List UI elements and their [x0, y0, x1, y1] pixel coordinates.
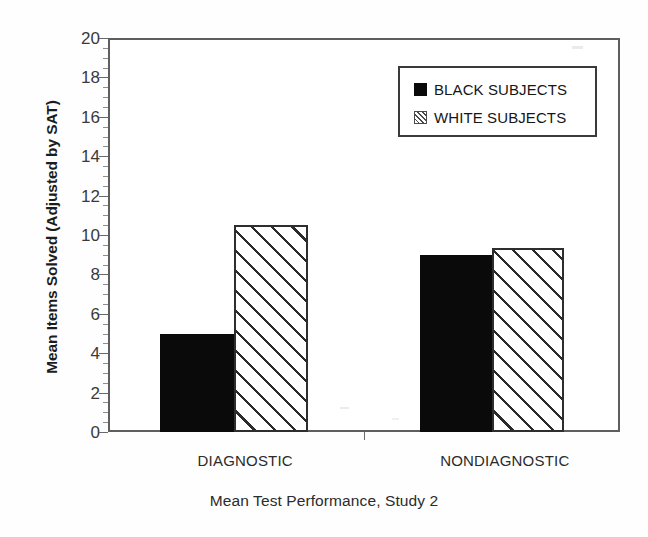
x-axis-label-diagnostic: DIAGNOSTIC [198, 452, 293, 469]
y-major-tick [99, 393, 108, 394]
y-tick-label: 6 [60, 305, 100, 322]
y-tick-label: 4 [60, 345, 100, 362]
y-major-tick [99, 117, 108, 118]
chart-legend: BLACK SUBJECTS WHITE SUBJECTS [398, 66, 597, 137]
y-major-tick [99, 77, 108, 78]
x-major-tick [364, 432, 365, 440]
bar-nondiagnostic-black-subjects [420, 255, 492, 432]
scan-speckle [392, 418, 399, 420]
y-tick-label: 20 [60, 30, 100, 47]
y-tick-label: 10 [60, 227, 100, 244]
y-major-tick [99, 314, 108, 315]
figure-caption: Mean Test Performance, Study 2 [0, 492, 648, 510]
y-major-tick [99, 38, 108, 39]
x-axis-ticks [108, 432, 620, 442]
legend-item-white-subjects: WHITE SUBJECTS [414, 103, 595, 131]
hatched-square-swatch-icon [414, 111, 427, 124]
scan-speckle [572, 46, 583, 49]
x-axis-label-nondiagnostic: NONDIAGNOSTIC [440, 452, 569, 469]
y-tick-label: 16 [60, 108, 100, 125]
chart-figure: Mean Items Solved (Adjusted by SAT) 2018… [0, 0, 648, 537]
y-axis-tick-labels: 20181614121086420 [52, 0, 100, 537]
y-tick-label: 2 [60, 384, 100, 401]
y-major-tick [99, 235, 108, 236]
y-tick-label: 18 [60, 69, 100, 86]
legend-label-white-subjects: WHITE SUBJECTS [434, 109, 566, 126]
scan-speckle [340, 407, 349, 409]
legend-label-black-subjects: BLACK SUBJECTS [434, 81, 567, 98]
y-major-tick [99, 353, 108, 354]
y-tick-label: 14 [60, 148, 100, 165]
bar-diagnostic-white-subjects [234, 225, 308, 432]
legend-item-black-subjects: BLACK SUBJECTS [414, 75, 595, 103]
y-major-tick [99, 274, 108, 275]
bar-nondiagnostic-white-subjects [492, 248, 564, 432]
y-major-tick [99, 156, 108, 157]
y-tick-label: 0 [60, 424, 100, 441]
solid-square-swatch-icon [414, 83, 427, 96]
y-major-tick [99, 432, 108, 433]
y-tick-label: 12 [60, 187, 100, 204]
bar-diagnostic-black-subjects [160, 334, 234, 433]
y-major-tick [99, 196, 108, 197]
y-tick-label: 8 [60, 266, 100, 283]
